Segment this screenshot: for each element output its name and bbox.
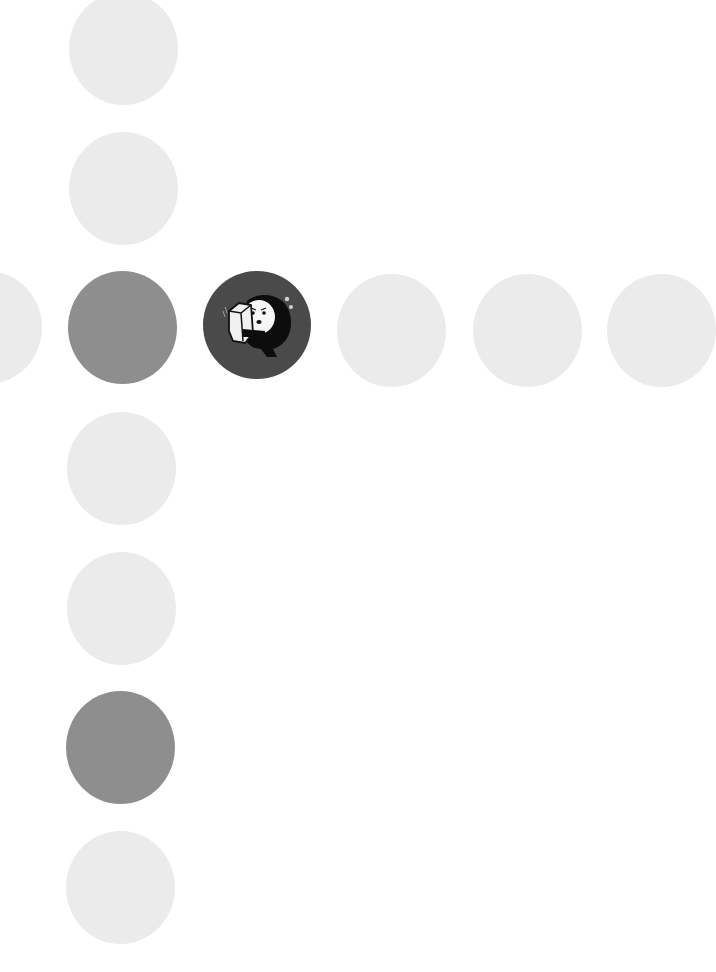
circle-item-col-6[interactable]	[66, 831, 175, 944]
circle-item-row-right-partial[interactable]	[607, 274, 716, 387]
circle-item-col-5[interactable]	[66, 691, 175, 804]
circle-item-row-center-gray[interactable]	[68, 271, 177, 384]
circle-item-col-4[interactable]	[67, 552, 176, 665]
circle-item-row-3[interactable]	[337, 274, 446, 387]
circle-item-col-1[interactable]	[69, 132, 178, 245]
circle-item-selected-character[interactable]	[203, 271, 311, 379]
circle-item-col-0[interactable]	[69, 0, 178, 105]
circle-item-row-left-partial[interactable]	[0, 271, 42, 384]
circle-item-col-3[interactable]	[67, 412, 176, 525]
character-hugging-box-icon	[203, 271, 311, 379]
circle-item-row-4[interactable]	[473, 274, 582, 387]
